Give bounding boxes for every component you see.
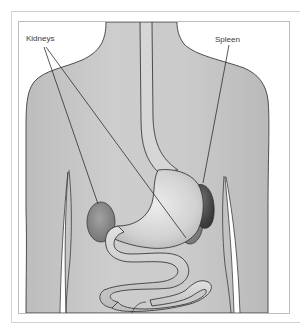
torso-illustration [0, 0, 304, 328]
spleen-label: Spleen [215, 35, 240, 44]
kidneys-label: Kidneys [26, 34, 54, 43]
